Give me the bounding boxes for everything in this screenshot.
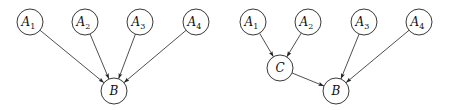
node-c: C — [267, 55, 293, 81]
edge-a1-to-c — [260, 33, 274, 57]
bayesian-network-diagrams: A1A2A3A4BA1A2A3A4CB — [0, 0, 449, 110]
nodes-layer: A1A2A3A4BA1A2A3A4CB — [17, 9, 432, 104]
node-a2: A2 — [295, 9, 321, 35]
node-a1: A1 — [240, 9, 266, 35]
node-b: B — [323, 78, 349, 104]
diagram-left-nodes: A1A2A3A4B — [17, 9, 209, 104]
node-label: B — [331, 84, 341, 98]
edge-c-to-b — [292, 73, 324, 86]
node-b: B — [101, 78, 127, 104]
node-a1: A1 — [17, 9, 43, 35]
edges-layer — [40, 30, 409, 86]
edge-a3-to-b — [119, 34, 136, 79]
node-a2: A2 — [72, 9, 98, 35]
node-label: B — [109, 84, 119, 98]
edge-a4-to-b — [124, 30, 186, 82]
edge-a2-to-b — [90, 34, 109, 79]
edge-a4-to-b — [346, 30, 409, 82]
diagram-right-nodes: A1A2A3A4CB — [240, 9, 432, 104]
edge-a1-to-b — [40, 30, 104, 83]
node-a3: A3 — [127, 9, 153, 35]
edge-a2-to-c — [287, 33, 301, 57]
node-label: C — [275, 61, 284, 75]
node-a4: A4 — [406, 9, 432, 35]
edge-a3-to-b — [341, 34, 359, 79]
node-a3: A3 — [351, 9, 377, 35]
diagram-left-edges — [40, 30, 186, 83]
node-a4: A4 — [183, 9, 209, 35]
